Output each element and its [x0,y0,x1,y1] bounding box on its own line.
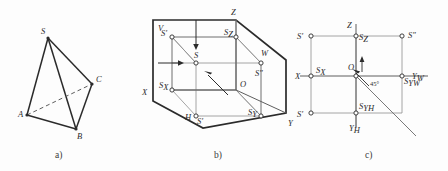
inner-box [153,20,261,116]
angle-label-45: 45° [370,80,380,87]
axis-label-X: X [294,71,301,81]
point-label-S-H: S′ [197,116,203,126]
plane-label-H: H [184,112,192,122]
tetrahedron-edges [27,38,92,129]
vertex-label-B: B [77,131,82,141]
point-label-S-front: S′ [161,28,167,38]
epure-arrows [352,56,369,86]
projection-arrows [158,20,228,95]
point-marker-S-front [170,35,174,39]
point-marker-S-Z [354,34,358,38]
vertex-label-A: A [17,109,24,119]
point-label-S-X: SX [316,65,326,77]
point-label-S-YW: SYW [404,76,421,88]
point-labels: S′ S SZ S″ SX S′ SY [159,27,263,126]
point-label-S-YH: SYH [359,101,375,113]
origin-label-O: O [240,79,246,89]
vertex-dot-S [46,36,49,39]
arrow-diagonal-shaft [208,75,228,95]
plane-label-W: W [261,48,269,58]
point-marker-S-side [400,34,404,38]
multiview-svg: Z X YW YH O 45° S′ SZ S″ SX SYW S′ SYH c… [292,0,448,171]
axis-label-X: X [141,87,148,97]
panel-b-caption: b) [214,150,222,161]
axis-label-Y-H: YH [349,123,361,135]
point-marker-S-Z [234,35,238,39]
point-marker-S-Y [259,114,263,118]
point-label-S-Z: SZ [359,32,368,44]
point-marker-S-side [259,61,263,65]
point-label-S-horiz: S′ [297,109,303,119]
upper-face [172,37,261,63]
panel-b-axonometric: Z X Y V H W O S′ S SZ S″ SX S′ SY b) [140,0,300,171]
spare [172,63,196,90]
vertex-label-C: C [96,74,102,84]
axis-label-Z: Z [231,7,236,17]
axis-plane-labels: Z X Y V H W O [141,7,294,128]
vertex-label-S: S [41,26,46,36]
point-label-S-Y: SY [248,107,258,119]
vertex-dot-A [25,113,28,116]
point-label-S-side: S″ [408,30,416,40]
panel-a-tetrahedron: S A B C a) [0,0,145,171]
vertex-dot-C [90,82,93,85]
panel-a-caption: a) [55,150,62,161]
tetrahedron-svg: S A B C a) [0,0,145,171]
point-marker-S-YH [354,111,358,115]
point-label-S-space: S [194,50,199,60]
point-label-S-front: S′ [297,31,303,41]
arrow-right-head [178,60,184,66]
axis-label-Z: Z [347,20,352,30]
edge-S-A [27,38,48,115]
panel-c-multiview: Z X YW YH O 45° S′ SZ S″ SX SYW S′ SYH c… [292,0,448,171]
point-marker-S-space [194,61,198,65]
figure-root: S A B C a) [0,0,448,171]
panel-c-caption: c) [365,150,372,161]
arrow-origin-up-head [360,56,365,62]
edge-A-B [27,115,76,129]
point-label-S-side: S″ [255,68,263,78]
point-marker-S-X [309,74,313,78]
point-marker-S-horiz [309,111,313,115]
arrow-diagonal-head [204,71,212,75]
origin-label-O: O [348,62,354,72]
point-marker-S-X [170,88,174,92]
connector-Sfront-S [172,37,196,63]
point-label-S-X: SX [159,80,169,92]
point-markers [170,35,263,118]
point-marker-origin [354,74,358,78]
axonometric-svg: Z X Y V H W O S′ S SZ S″ SX S′ SY b) [140,0,300,171]
point-marker-S-front [309,34,313,38]
